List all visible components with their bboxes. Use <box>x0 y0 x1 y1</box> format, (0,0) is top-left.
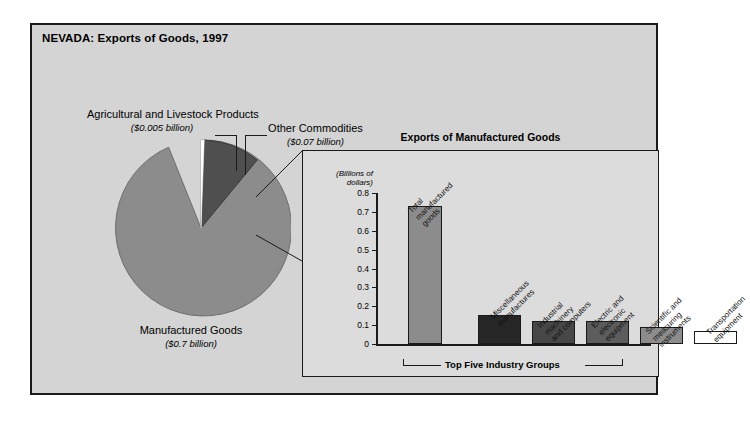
y-tick-mark <box>372 212 376 213</box>
y-tick-label: 0.3 <box>329 282 369 292</box>
y-tick-label: 0.2 <box>329 301 369 311</box>
y-tick-label: 0.4 <box>329 264 369 274</box>
y-tick-mark <box>372 325 376 326</box>
inset-title: Exports of Manufactured Goods <box>302 131 659 143</box>
y-axis-line <box>376 193 378 346</box>
bracket-right-tick <box>622 359 623 366</box>
y-tick-label: 0.5 <box>329 245 369 255</box>
y-tick-label: 0.6 <box>329 226 369 236</box>
y-tick-mark <box>372 250 376 251</box>
bracket-left-arm <box>403 365 441 366</box>
y-tick-label: 0 <box>329 339 369 349</box>
plot-area: 00.10.20.30.40.50.60.70.8 Totalmanufactu… <box>303 151 658 376</box>
bracket-label: Top Five Industry Groups <box>445 359 560 370</box>
y-tick-label: 0.8 <box>329 188 369 198</box>
inset-bar-chart: (Billions of dollars) 00.10.20.30.40.50.… <box>302 150 659 377</box>
y-tick-mark <box>372 231 376 232</box>
x-axis-line <box>376 344 651 346</box>
y-tick-mark <box>372 287 376 288</box>
bracket-right-arm <box>585 365 623 366</box>
y-tick-label: 0.7 <box>329 207 369 217</box>
y-tick-label: 0.1 <box>329 320 369 330</box>
y-tick-mark <box>372 344 376 345</box>
y-tick-mark <box>372 306 376 307</box>
y-tick-mark <box>372 193 376 194</box>
y-tick-mark <box>372 269 376 270</box>
exports-panel: NEVADA: Exports of Goods, 1997 Agricultu… <box>30 23 658 395</box>
